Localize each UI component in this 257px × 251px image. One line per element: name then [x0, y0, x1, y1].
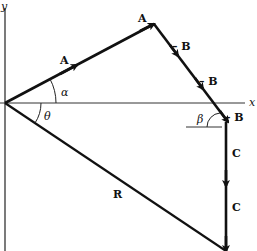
alpha-arc — [50, 79, 56, 103]
label-a-tip: A — [137, 12, 147, 25]
label-neg-b-2: – B — [199, 75, 218, 88]
vector-a — [5, 24, 154, 103]
vector-r — [5, 103, 226, 251]
label-c-2: C — [232, 201, 241, 214]
label-beta: β — [196, 113, 203, 126]
y-axis-label: y — [0, 0, 8, 13]
label-theta: θ — [44, 110, 51, 123]
label-a-mid: A — [59, 54, 69, 67]
label-neg-b-1: – B — [172, 40, 191, 53]
beta-arc — [207, 113, 220, 127]
vector-neg-b — [154, 24, 228, 122]
vector-a-arrow-tip — [140, 24, 154, 31]
label-c-1: C — [232, 147, 241, 160]
label-neg-b-3: – B — [225, 111, 244, 124]
label-alpha: α — [61, 86, 69, 99]
x-axis-label: x — [249, 96, 256, 109]
label-r: R — [113, 188, 123, 201]
diagram-canvas: y x A A – B – B – B C C R α θ β — [0, 0, 257, 251]
theta-arc — [35, 103, 41, 123]
vector-diagram: y x A A – B – B – B C C R α θ β — [0, 0, 257, 251]
